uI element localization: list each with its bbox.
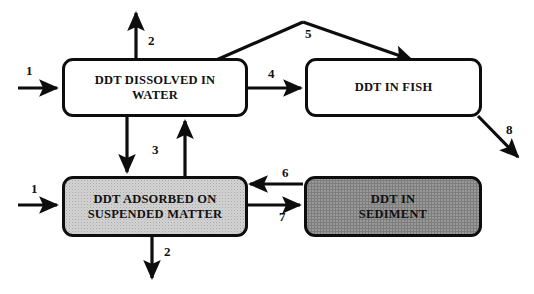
arrow-flow-5-descent <box>303 22 412 60</box>
node-ddt-adsorbed-on-suspended-matter[interactable]: DDT ADSORBED ON SUSPENDED MATTER <box>62 176 248 237</box>
flow-label-3-water-suspended-exchange: 3 <box>152 143 159 156</box>
flow-label-8-fish-output: 8 <box>506 123 513 136</box>
flow-label-5-water-to-fish-overhead: 5 <box>305 27 312 40</box>
flow-label-7-suspended-to-sediment: 7 <box>279 210 286 223</box>
node-ddt-in-fish[interactable]: DDT IN FISH <box>305 58 482 117</box>
node-ddt-adsorbed-on-suspended-matter-label: DDT ADSORBED ON SUSPENDED MATTER <box>82 192 229 222</box>
flow-label-6-sediment-to-suspended: 6 <box>282 166 289 179</box>
node-ddt-dissolved-in-water[interactable]: DDT DISSOLVED IN WATER <box>62 58 248 117</box>
ddt-flow-diagram: DDT DISSOLVED IN WATER DDT IN FISH DDT A… <box>0 0 534 294</box>
flow-label-2-suspended-output: 2 <box>164 245 171 258</box>
flow-label-1-water-input: 1 <box>26 64 33 77</box>
node-ddt-in-fish-label: DDT IN FISH <box>349 80 439 95</box>
flow-label-4-water-to-fish: 4 <box>268 67 275 80</box>
node-ddt-in-sediment-label: DDT IN SEDIMENT <box>353 192 433 222</box>
connector-layer <box>0 0 534 294</box>
flow-label-1-suspended-input: 1 <box>31 182 38 195</box>
flow-label-2-water-output: 2 <box>148 34 155 47</box>
node-ddt-dissolved-in-water-label: DDT DISSOLVED IN WATER <box>89 73 222 103</box>
arrow-flow-5-water-to-fish-overhead <box>214 22 303 61</box>
node-ddt-in-sediment[interactable]: DDT IN SEDIMENT <box>304 176 482 237</box>
